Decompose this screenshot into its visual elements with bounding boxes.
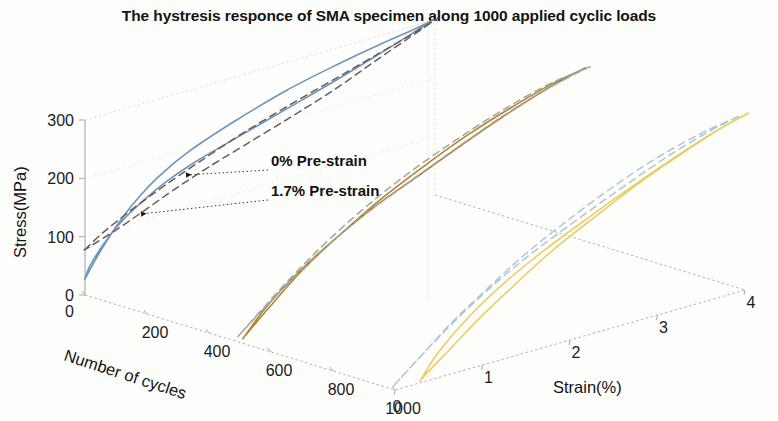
tick-strain-3: 3 bbox=[659, 319, 668, 336]
tick-stress-0: 0 bbox=[65, 287, 74, 304]
tick-stress-100: 100 bbox=[47, 229, 74, 246]
axis-title-cycles: Number of cycles bbox=[62, 346, 189, 403]
tick-cycles-0: 0 bbox=[65, 303, 74, 320]
curve-cycle-0-prestrain-0 bbox=[85, 20, 433, 280]
chart-figure: The hystresis responce of SMA specimen a… bbox=[0, 0, 778, 421]
three-d-plot-canvas: 01002003000200400600800100001234 Stress(… bbox=[0, 0, 778, 421]
axis-title-strain: Strain(%) bbox=[553, 378, 622, 396]
annotation-leader-ann0 bbox=[186, 170, 268, 175]
tick-stress-300: 300 bbox=[47, 112, 74, 129]
curve-cycle-1000-prestrain-0 bbox=[420, 113, 749, 381]
axis-frame bbox=[79, 20, 745, 395]
tick-cycles-200: 200 bbox=[142, 324, 169, 341]
tick-cycles-1000: 1000 bbox=[385, 400, 421, 417]
curve-cycle-500-prestrain-0 bbox=[243, 68, 586, 339]
data-curves bbox=[84, 18, 748, 386]
axis-tick-labels: 01002003000200400600800100001234 bbox=[47, 112, 755, 417]
curve-cycle-0-prestrain-1p7 bbox=[84, 18, 438, 250]
tick-cycles-600: 600 bbox=[266, 362, 293, 379]
tick-strain-1: 1 bbox=[484, 369, 493, 386]
tick-strain-2: 2 bbox=[572, 344, 581, 361]
tick-cycles-400: 400 bbox=[204, 343, 231, 360]
annotation-label-ann17: 1.7% Pre-strain bbox=[271, 182, 379, 199]
axis-title-stress: Stress(MPa) bbox=[11, 166, 29, 258]
tick-stress-200: 200 bbox=[47, 170, 74, 187]
tick-strain-0: 0 bbox=[393, 398, 402, 415]
tick-cycles-800: 800 bbox=[328, 381, 355, 398]
annotation-leader-ann17 bbox=[141, 200, 268, 214]
tick-strain-4: 4 bbox=[747, 294, 756, 311]
annotation-label-ann0: 0% Pre-strain bbox=[271, 152, 367, 169]
